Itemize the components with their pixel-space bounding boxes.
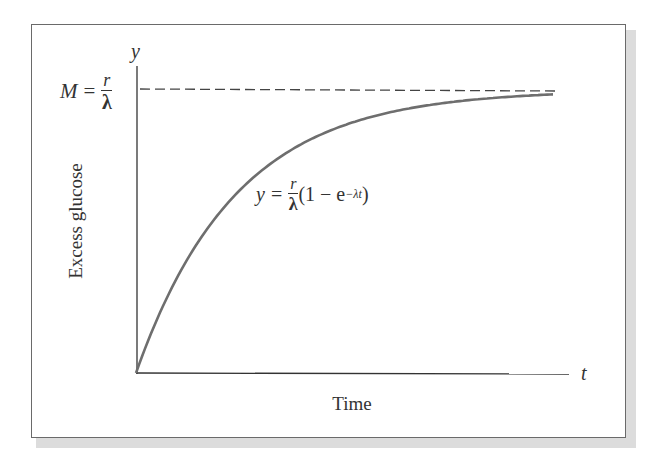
equation-exponent: −λt (345, 187, 362, 202)
glucose-curve (136, 94, 553, 373)
y-axis-variable: y (131, 40, 140, 63)
curve-equation: y = r λ (1 − e−λt) (256, 176, 369, 213)
asymptote-equals: = (84, 79, 96, 104)
plot-area (0, 0, 656, 460)
equation-body: (1 − e (298, 183, 345, 206)
equation-denominator: λ (289, 194, 298, 213)
x-axis (136, 373, 569, 374)
asymptote-symbol: M (60, 79, 78, 104)
y-axis-label: Excess glucose (65, 163, 87, 279)
asymptote-line (140, 89, 555, 91)
x-axis-variable: t (581, 362, 587, 385)
equation-close: ) (362, 183, 369, 206)
asymptote-denominator: λ (102, 91, 112, 112)
asymptote-fraction: r λ (101, 71, 112, 112)
equation-equals: = (271, 183, 282, 206)
x-axis-label: Time (332, 393, 371, 415)
equation-fraction: r λ (288, 176, 298, 213)
asymptote-label: M = r λ (60, 70, 112, 112)
equation-lhs: y (256, 183, 265, 206)
asymptote-numerator: r (101, 71, 112, 91)
equation-numerator: r (288, 176, 298, 194)
